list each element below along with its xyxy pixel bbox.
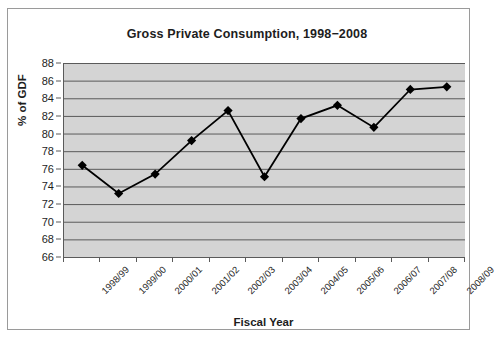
x-tick-mark bbox=[136, 258, 137, 262]
x-tick-mark bbox=[355, 258, 356, 262]
x-tick-label: 1999/00 bbox=[136, 264, 168, 296]
x-tick-label: 2008/09 bbox=[464, 264, 496, 296]
y-tick-label: 68 bbox=[42, 233, 54, 245]
y-tick-mark bbox=[56, 186, 61, 187]
y-tick-label: 76 bbox=[42, 163, 54, 175]
y-tick-mark bbox=[56, 98, 61, 99]
chart-title: Gross Private Consumption, 1998−2008 bbox=[8, 27, 486, 41]
x-tick-label: 2002/03 bbox=[245, 264, 277, 296]
y-tick-mark bbox=[56, 168, 61, 169]
chart-frame: Gross Private Consumption, 1998−2008 % o… bbox=[7, 8, 470, 330]
x-tick-label: 2001/02 bbox=[209, 264, 241, 296]
x-tick-label: 2003/04 bbox=[282, 264, 314, 296]
series-plot bbox=[64, 63, 465, 257]
x-tick-label: 2000/01 bbox=[172, 264, 204, 296]
y-tick-label: 86 bbox=[42, 75, 54, 87]
x-tick-mark bbox=[318, 258, 319, 262]
y-axis-tick-labels: 888684828078767472706866 bbox=[8, 63, 61, 257]
plot-area bbox=[63, 63, 465, 258]
x-tick-mark bbox=[391, 258, 392, 262]
data-point-marker bbox=[333, 101, 342, 110]
y-tick-mark bbox=[56, 80, 61, 81]
x-tick-label: 2004/05 bbox=[318, 264, 350, 296]
y-tick-label: 82 bbox=[42, 110, 54, 122]
data-point-marker bbox=[442, 82, 451, 91]
x-tick-mark bbox=[99, 258, 100, 262]
x-tick-label: 1998/99 bbox=[99, 264, 131, 296]
y-tick-label: 72 bbox=[42, 198, 54, 210]
y-tick-mark bbox=[56, 221, 61, 222]
x-tick-mark bbox=[464, 258, 465, 262]
y-tick-label: 84 bbox=[42, 92, 54, 104]
x-tick-mark bbox=[172, 258, 173, 262]
y-tick-label: 70 bbox=[42, 216, 54, 228]
x-tick-mark bbox=[63, 258, 64, 262]
y-tick-mark bbox=[56, 257, 61, 258]
y-tick-mark bbox=[56, 115, 61, 116]
y-tick-label: 88 bbox=[42, 57, 54, 69]
x-axis-tick-labels: 1998/991999/002000/012001/022002/032003/… bbox=[63, 258, 464, 316]
y-tick-mark bbox=[56, 239, 61, 240]
y-tick-mark bbox=[56, 133, 61, 134]
x-tick-mark bbox=[209, 258, 210, 262]
x-tick-mark bbox=[282, 258, 283, 262]
x-tick-label: 2005/06 bbox=[354, 264, 386, 296]
x-tick-label: 2006/07 bbox=[391, 264, 423, 296]
y-tick-label: 80 bbox=[42, 128, 54, 140]
x-tick-mark bbox=[245, 258, 246, 262]
data-point-marker bbox=[296, 114, 305, 123]
y-tick-mark bbox=[56, 204, 61, 205]
y-tick-mark bbox=[56, 63, 61, 64]
y-tick-label: 66 bbox=[42, 251, 54, 263]
x-axis-title: Fiscal Year bbox=[63, 316, 464, 328]
x-tick-label: 2007/08 bbox=[427, 264, 459, 296]
y-tick-label: 74 bbox=[42, 180, 54, 192]
x-tick-mark bbox=[428, 258, 429, 262]
data-point-marker bbox=[260, 172, 269, 181]
y-tick-label: 78 bbox=[42, 145, 54, 157]
y-tick-mark bbox=[56, 151, 61, 152]
